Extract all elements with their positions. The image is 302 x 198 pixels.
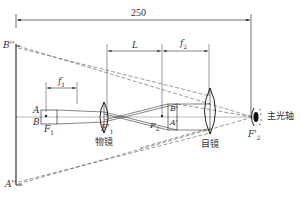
objective-label: 物镜 (95, 138, 113, 147)
dimension-L-f2 (107, 44, 209, 117)
point-A-prime: A' (170, 119, 178, 127)
point-F2: F2 (150, 122, 159, 132)
point-F1: F1 (44, 125, 54, 136)
point-B-double-prime: B'' (3, 41, 15, 50)
point-F1-prime: F'1 (101, 124, 114, 135)
dimension-L-label: L (132, 41, 138, 50)
point-A: A (33, 106, 40, 115)
point-F2-prime: F'2 (248, 130, 261, 141)
eyepiece-label: 目镜 (201, 140, 219, 149)
final-image-plane (16, 44, 22, 185)
optical-axis-label: 主光轴 (267, 112, 294, 121)
dimension-f1-label: f1 (58, 77, 65, 88)
dimension-250 (16, 14, 251, 118)
dimension-f2-label: f2 (180, 39, 187, 50)
point-B: B (33, 118, 40, 127)
dimension-250-label: 250 (131, 8, 146, 18)
virtual-rays (18, 46, 253, 184)
optical-diagram (0, 0, 302, 198)
point-B-prime: B' (170, 105, 178, 113)
point-A-double-prime: A'' (5, 180, 16, 189)
